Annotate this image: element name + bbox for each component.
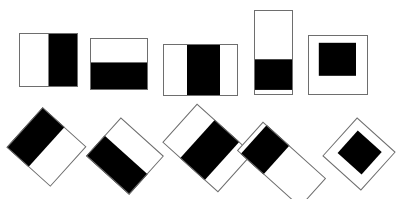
tile-1-upright-band-2 — [49, 33, 79, 87]
tile-2-upright — [90, 38, 148, 90]
tile-5-upright — [308, 35, 368, 95]
figure-canvas — [0, 0, 406, 199]
tile-2-upright-band-2 — [90, 62, 148, 90]
tile-3-upright-band-2 — [187, 44, 220, 96]
tile-4-rotated — [237, 122, 326, 199]
tile-2-rotated — [86, 117, 164, 194]
tile-1-upright — [19, 33, 78, 87]
tile-5-upright-inset — [319, 43, 356, 76]
tile-1-rotated — [7, 107, 87, 187]
tile-5-rotated — [322, 117, 395, 190]
tile-3-upright — [163, 44, 238, 96]
tile-4-upright-band-2 — [254, 59, 293, 90]
tile-4-upright — [254, 10, 293, 95]
